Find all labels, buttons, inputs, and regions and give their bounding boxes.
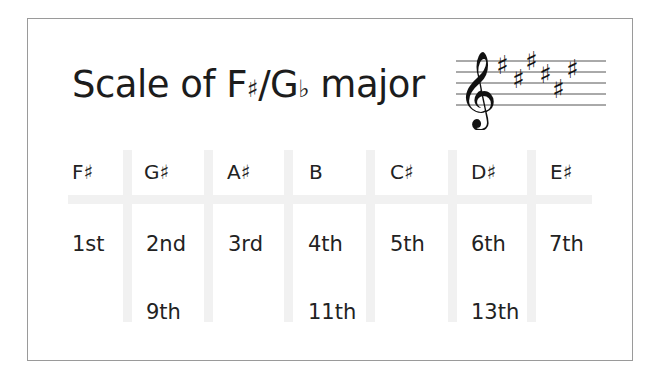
extension-cell: 11th xyxy=(308,300,356,324)
note-cell: F♯ xyxy=(72,160,93,184)
page-title: Scale of F♯/G♭ major xyxy=(72,61,425,113)
grid-divider xyxy=(204,150,213,322)
grid-divider xyxy=(284,150,293,322)
svg-text:♯: ♯ xyxy=(539,59,552,89)
extension-cell: 13th xyxy=(471,300,519,324)
svg-text:♯: ♯ xyxy=(566,54,579,84)
degree-cell: 1st xyxy=(72,232,105,256)
svg-text:♯: ♯ xyxy=(496,50,509,80)
svg-text:♯: ♯ xyxy=(512,64,525,94)
treble-clef-icon: 𝄞 xyxy=(458,51,497,130)
sharp-signs-icon: ♯ ♯ ♯ ♯ ♯ ♯ xyxy=(496,46,579,104)
degree-cell: 7th xyxy=(549,232,584,256)
extension-cell: 9th xyxy=(146,300,181,324)
sharp-symbol: ♯ xyxy=(247,75,258,103)
flat-symbol: ♭ xyxy=(298,75,309,103)
note-cell: B xyxy=(309,160,323,184)
degree-cell: 5th xyxy=(390,232,425,256)
treble-staff-key-signature: 𝄞 ♯ ♯ ♯ ♯ ♯ ♯ xyxy=(452,30,612,130)
note-cell: E♯ xyxy=(550,160,572,184)
grid-divider xyxy=(123,150,132,322)
note-cell: G♯ xyxy=(144,160,169,184)
degree-cell: 6th xyxy=(471,232,506,256)
svg-text:♯: ♯ xyxy=(525,46,538,76)
grid-divider xyxy=(527,150,536,322)
grid-header-divider xyxy=(68,195,592,204)
note-cell: D♯ xyxy=(471,160,496,184)
grid-divider xyxy=(448,150,457,322)
note-cell: A♯ xyxy=(227,160,250,184)
degree-cell: 4th xyxy=(308,232,343,256)
degree-cell: 3rd xyxy=(228,232,263,256)
note-cell: C♯ xyxy=(390,160,414,184)
svg-text:♯: ♯ xyxy=(552,74,565,104)
degree-cell: 2nd xyxy=(146,232,186,256)
grid-divider xyxy=(366,150,375,322)
